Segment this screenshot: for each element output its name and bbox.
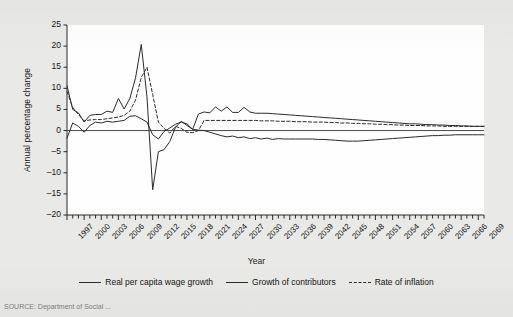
legend-label: Real per capita wage growth bbox=[105, 277, 213, 287]
chart-legend: Real per capita wage growthGrowth of con… bbox=[0, 277, 513, 287]
y-tick-label: 25 bbox=[27, 19, 61, 29]
chart-figure: Annual percentage change Year –20–15–10–… bbox=[0, 0, 513, 317]
line-chart bbox=[0, 0, 513, 291]
y-tick-label: 0 bbox=[27, 125, 61, 135]
x-axis-title: Year bbox=[0, 256, 513, 266]
legend-item: Real per capita wage growth bbox=[79, 277, 213, 287]
legend-label: Rate of inflation bbox=[375, 277, 434, 287]
legend-label: Growth of contributors bbox=[252, 277, 336, 287]
legend-item: Growth of contributors bbox=[226, 277, 336, 287]
legend-line-swatch bbox=[226, 279, 248, 286]
y-tick-label: –20 bbox=[27, 209, 61, 219]
y-tick-label: 15 bbox=[27, 61, 61, 71]
series-line bbox=[67, 44, 484, 189]
legend-line-swatch bbox=[349, 279, 371, 286]
legend-item: Rate of inflation bbox=[349, 277, 434, 287]
y-tick-label: 5 bbox=[27, 103, 61, 113]
y-tick-label: –10 bbox=[27, 167, 61, 177]
series-line bbox=[67, 116, 484, 141]
series-line bbox=[67, 67, 484, 133]
source-note: SOURCE: Department of Social ... bbox=[4, 303, 111, 310]
y-tick-label: –5 bbox=[27, 146, 61, 156]
legend-line-swatch bbox=[79, 279, 101, 286]
y-tick-label: 20 bbox=[27, 40, 61, 50]
y-tick-label: –15 bbox=[27, 188, 61, 198]
y-tick-label: 10 bbox=[27, 82, 61, 92]
